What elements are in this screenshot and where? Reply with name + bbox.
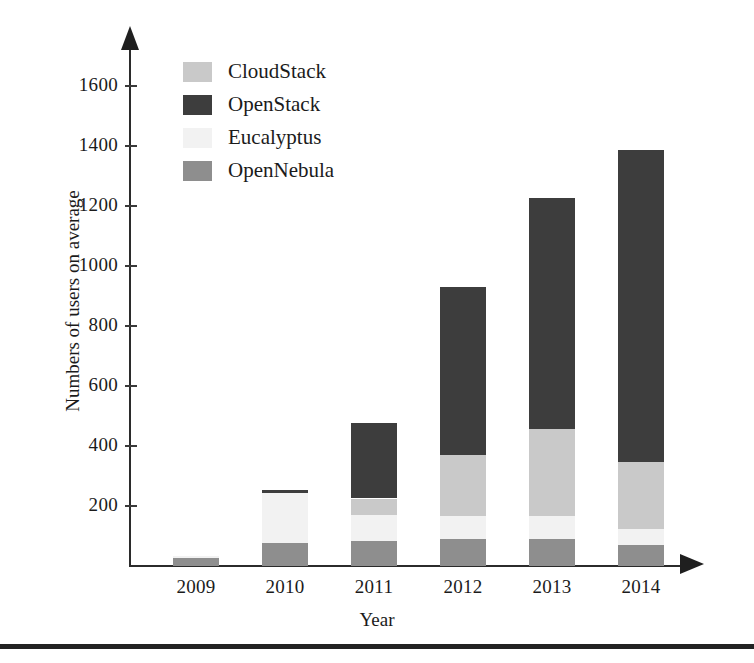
bar-segment-openstack-2014: [618, 150, 664, 462]
plot-area: [0, 0, 754, 663]
legend-item-eucalyptus: Eucalyptus: [183, 121, 334, 154]
bar-segment-eucalyptus-2012: [440, 516, 486, 539]
legend-item-cloudstack: CloudStack: [183, 55, 334, 88]
x-axis-tick-label-2010: 2010: [240, 576, 330, 598]
bar-segment-eucalyptus-2010: [262, 493, 308, 543]
bar-segment-eucalyptus-2014: [618, 529, 664, 545]
bar-segment-opennebula-2009: [173, 558, 219, 566]
bar-segment-openstack-2010: [262, 490, 308, 494]
page-bottom-rule: [0, 644, 754, 649]
bar-segment-eucalyptus-2013: [529, 516, 575, 539]
legend-swatch-icon: [183, 62, 212, 82]
bar-segment-eucalyptus-2011: [351, 515, 397, 541]
bar-segment-openstack-2011: [351, 423, 397, 499]
legend-label: OpenNebula: [228, 160, 334, 181]
x-axis-title: Year: [0, 609, 754, 631]
bar-segment-opennebula-2011: [351, 541, 397, 567]
legend-item-opennebula: OpenNebula: [183, 154, 334, 187]
x-axis-tick-label-2013: 2013: [507, 576, 597, 598]
legend-label: OpenStack: [228, 94, 320, 115]
x-axis-tick-label-2009: 2009: [151, 576, 241, 598]
x-axis-tick-label-2011: 2011: [329, 576, 419, 598]
chart-legend: CloudStackOpenStackEucalyptusOpenNebula: [183, 55, 334, 187]
legend-swatch-icon: [183, 95, 212, 115]
bar-segment-opennebula-2012: [440, 539, 486, 566]
bar-segment-opennebula-2014: [618, 545, 664, 566]
bar-segment-opennebula-2013: [529, 539, 575, 566]
legend-swatch-icon: [183, 128, 212, 148]
x-axis-tick-label-2012: 2012: [418, 576, 508, 598]
bar-segment-cloudstack-2012: [440, 455, 486, 516]
bar-segment-openstack-2012: [440, 287, 486, 455]
bar-segment-cloudstack-2014: [618, 462, 664, 530]
x-axis-tick-label-2014: 2014: [596, 576, 686, 598]
legend-swatch-icon: [183, 161, 212, 181]
legend-item-openstack: OpenStack: [183, 88, 334, 121]
bar-segment-openstack-2013: [529, 198, 575, 429]
bar-segment-eucalyptus-2009: [173, 556, 219, 558]
legend-label: Eucalyptus: [228, 127, 321, 148]
y-axis-title: Numbers of users on average: [62, 151, 84, 451]
bar-chart: 2004006008001000120014001600 20092010201…: [0, 0, 754, 663]
bar-segment-cloudstack-2013: [529, 429, 575, 516]
legend-label: CloudStack: [228, 61, 326, 82]
bar-segment-opennebula-2010: [262, 543, 308, 566]
bar-segment-cloudstack-2011: [351, 499, 397, 516]
